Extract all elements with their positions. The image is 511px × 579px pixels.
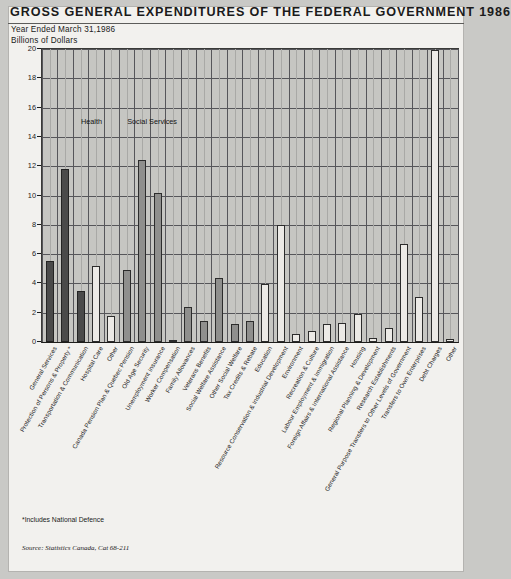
y-axis-tick-mark [37,107,41,108]
gridline-vertical-minor [296,49,297,342]
gridline-vertical-minor [358,49,359,342]
gridline-vertical [335,49,336,342]
bar [338,323,346,342]
bar [92,266,100,342]
bar [61,169,69,342]
gridline-vertical [458,49,459,342]
gridline-vertical-minor [342,49,343,342]
bar [431,50,439,342]
gridline-vertical [150,49,151,342]
y-axis-tick-mark [37,136,41,137]
source-note: Source: Statistics Canada, Cat 68-211 [22,544,129,552]
y-axis-tick-mark [37,282,41,283]
gridline-vertical [381,49,382,342]
gridline-vertical [396,49,397,342]
y-axis-tick-label: 10 [14,191,36,200]
y-axis-tick-label: 16 [14,103,36,112]
bar [138,160,146,342]
gridline-vertical [258,49,259,342]
bar [107,316,115,342]
gridline-vertical [289,49,290,342]
gridline-vertical-minor [250,49,251,342]
y-axis-tick-label: 2 [14,308,36,317]
bar [169,340,177,342]
y-axis-tick-mark [37,224,41,225]
y-axis-tick-mark [37,312,41,313]
gridline-vertical-minor [204,49,205,342]
y-axis-tick-label: 0 [14,337,36,346]
gridline-vertical-minor [373,49,374,342]
y-axis-tick-label: 20 [14,44,36,53]
y-axis-tick-mark [37,195,41,196]
y-axis-tick-mark [37,48,41,49]
plot-area [41,48,459,343]
gridline-vertical-minor [312,49,313,342]
gridline-vertical [57,49,58,342]
gridline-vertical-minor [389,49,390,342]
bar [200,321,208,342]
bar [415,297,423,342]
x-axis-category-label: Resource Conservation & Industrial Devel… [213,345,289,470]
gridline-vertical [196,49,197,342]
x-axis-category-label: Other [105,345,119,362]
y-axis-tick-mark [37,77,41,78]
y-axis-tick-label: 12 [14,161,36,170]
x-axis-category-label: Other [444,345,458,362]
gridline-vertical-minor [111,49,112,342]
y-axis-tick-label: 18 [14,73,36,82]
gridline-vertical [366,49,367,342]
gridline-vertical-minor [173,49,174,342]
gridline-vertical [319,49,320,342]
gridline-vertical [165,49,166,342]
gridline-vertical [211,49,212,342]
gridline-vertical-minor [327,49,328,342]
y-axis-tick-label: 6 [14,249,36,258]
chart-annotation: Health [81,117,102,126]
gridline-vertical [181,49,182,342]
bar [246,321,254,342]
bar [292,334,300,342]
gridline-vertical [273,49,274,342]
y-axis-tick-label: 8 [14,220,36,229]
gridline-vertical [304,49,305,342]
bar [277,225,285,342]
y-axis-tick-mark [37,341,41,342]
gridline-vertical [88,49,89,342]
gridline-vertical [242,49,243,342]
gridline-vertical [427,49,428,342]
bar [308,331,316,342]
gridline-vertical [412,49,413,342]
bar [369,338,377,342]
y-axis-tick-mark [37,165,41,166]
bar [184,307,192,342]
chart-annotation: Social Services [127,117,177,126]
bar [46,261,54,342]
gridline-vertical [119,49,120,342]
gridline-vertical-minor [188,49,189,342]
footnote: *Includes National Defence [22,516,104,523]
bar [261,284,269,342]
bar [385,328,393,342]
gridline-vertical [104,49,105,342]
bar [154,193,162,342]
gridline-vertical [134,49,135,342]
gridline-vertical [443,49,444,342]
gridline-vertical-minor [450,49,451,342]
gridline-vertical [227,49,228,342]
gridline-vertical-minor [235,49,236,342]
bar [123,270,131,342]
bar [231,324,239,342]
gridline-vertical [73,49,74,342]
bar [446,339,454,342]
y-axis-tick-label: 14 [14,132,36,141]
y-axis-tick-mark [37,253,41,254]
bar [323,324,331,342]
gridline-vertical [350,49,351,342]
bar [354,314,362,342]
bar [215,278,223,342]
bar [400,244,408,342]
y-axis-tick-label: 4 [14,278,36,287]
gridline-vertical [42,49,43,342]
